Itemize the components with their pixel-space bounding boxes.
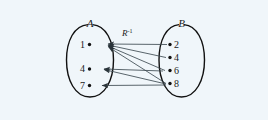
relation-diagram: A B R-1 <box>0 0 268 120</box>
element-a-7-label: 7 <box>80 80 85 91</box>
element-b-4-label: 4 <box>174 52 179 63</box>
element-a-4-label: 4 <box>80 63 85 74</box>
relation-label: R-1 <box>121 28 133 39</box>
element-b-6-label: 6 <box>174 65 179 76</box>
element-b-4-dot <box>168 56 171 59</box>
element-b-8-dot <box>168 82 171 85</box>
arrow-8-to-1 <box>109 47 167 84</box>
arrow-8-to-4 <box>104 70 166 85</box>
arrow-4-to-1 <box>108 45 166 58</box>
arrow-6-to-1 <box>108 46 165 71</box>
set-a-label: A <box>86 17 94 29</box>
arrow-2-to-1 <box>108 44 167 45</box>
set-b-ellipse <box>159 25 205 97</box>
svg-text:R-1: R-1 <box>121 28 133 39</box>
element-b-2-dot <box>168 43 171 46</box>
element-a-1-label: 1 <box>80 39 85 50</box>
element-a-4-dot <box>88 67 91 70</box>
set-b-label: B <box>178 17 185 29</box>
element-b-8-label: 8 <box>174 78 179 89</box>
set-a-nodes: 1 4 7 <box>80 39 91 91</box>
relation-label-exponent: -1 <box>128 28 133 34</box>
element-b-6-dot <box>168 69 171 72</box>
element-a-1-dot <box>88 43 91 46</box>
set-b-nodes: 2 4 6 8 <box>168 39 179 89</box>
element-a-7-dot <box>88 84 91 87</box>
arrow-group <box>102 44 167 86</box>
element-b-2-label: 2 <box>174 39 179 50</box>
arrow-8-to-7 <box>102 85 166 86</box>
